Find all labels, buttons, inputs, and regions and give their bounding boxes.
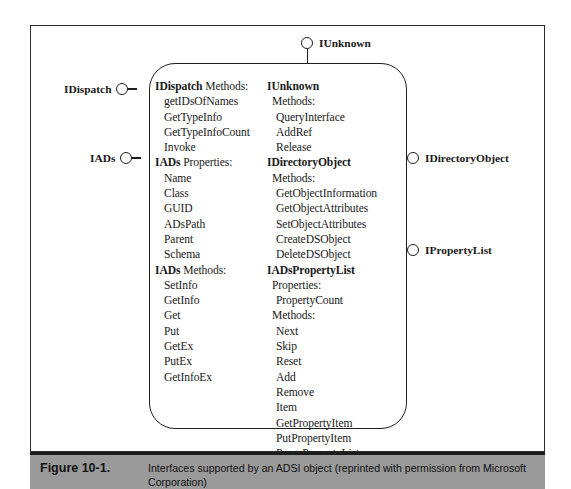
interface-heading: IUnknown — [267, 79, 417, 94]
member-name: GetInfoEx — [155, 370, 265, 385]
interface-lollipop-icon — [116, 83, 128, 95]
connector-iads: IADs — [90, 150, 141, 166]
member-name: Reset — [267, 354, 417, 369]
member-name: PutPropertyItem — [267, 431, 417, 446]
member-name: GetObjectInformation — [267, 186, 417, 201]
member-name: Put — [155, 324, 265, 339]
member-name: Add — [267, 370, 417, 385]
member-group-label: Methods: — [267, 308, 417, 323]
member-name: GetTypeInfoCount — [155, 125, 265, 140]
connector-iunknown-label: IUnknown — [319, 37, 371, 49]
member-name: SetObjectAttributes — [267, 217, 417, 232]
connector-stem — [128, 88, 137, 90]
interface-list-right: IUnknownMethods:QueryInterfaceAddRefRele… — [267, 79, 417, 461]
member-name: AddRef — [267, 125, 417, 140]
figure-number-label: Figure 10-1. — [30, 455, 148, 475]
member-name: PutEx — [155, 354, 265, 369]
member-name: Release — [267, 140, 417, 155]
member-name: Invoke — [155, 140, 265, 155]
member-name: SetInfo — [155, 278, 265, 293]
member-name: GUID — [155, 201, 265, 216]
member-name: QueryInterface — [267, 110, 417, 125]
connector-iunknown-stem — [307, 49, 309, 63]
connector-idirectoryobject-label: IDirectoryObject — [425, 152, 509, 164]
interface-heading: IADs Properties: — [155, 155, 265, 170]
connector-iunknown: IUnknown — [301, 37, 371, 49]
figure-caption-bar: Figure 10-1. Interfaces supported by an … — [30, 452, 545, 489]
interface-heading: IADs Methods: — [155, 263, 265, 278]
figure-caption-text: Interfaces supported by an ADSI object (… — [148, 455, 545, 489]
member-group-label: Properties: — [267, 278, 417, 293]
member-name: GetObjectAttributes — [267, 201, 417, 216]
member-name: Name — [155, 171, 265, 186]
interface-heading: IDirectoryObject — [267, 155, 417, 170]
member-name: Parent — [155, 232, 265, 247]
member-name: Class — [155, 186, 265, 201]
member-name: ADsPath — [155, 217, 265, 232]
connector-ipropertylist-label: IPropertyList — [425, 244, 492, 256]
interface-list-left: IDispatch Methods:getIDsOfNamesGetTypeIn… — [155, 79, 265, 385]
figure-frame: IUnknown IDispatch IADs IDirectoryObject… — [30, 25, 545, 452]
connector-iads-label: IADs — [90, 152, 115, 164]
member-name: GetPropertyItem — [267, 416, 417, 431]
member-name: Next — [267, 324, 417, 339]
interface-heading: IDispatch Methods: — [155, 79, 265, 94]
connector-stem — [132, 157, 141, 159]
member-name: GetInfo — [155, 293, 265, 308]
member-group-label: Methods: — [267, 94, 417, 109]
member-name: Schema — [155, 247, 265, 262]
member-name: Item — [267, 400, 417, 415]
connector-idispatch-label: IDispatch — [64, 83, 111, 95]
member-name: Remove — [267, 385, 417, 400]
member-group-label: Methods: — [267, 171, 417, 186]
member-name: GetEx — [155, 339, 265, 354]
member-name: CreateDSObject — [267, 232, 417, 247]
interface-lollipop-icon — [120, 152, 132, 164]
member-name: DeleteDSObject — [267, 247, 417, 262]
member-name: GetTypeInfo — [155, 110, 265, 125]
member-name: Get — [155, 308, 265, 323]
interface-heading: IADsPropertyList — [267, 263, 417, 278]
member-name: PropertyCount — [267, 293, 417, 308]
member-name: getIDsOfNames — [155, 94, 265, 109]
connector-idispatch: IDispatch — [64, 81, 137, 97]
interface-lollipop-icon — [301, 37, 313, 49]
member-name: Skip — [267, 339, 417, 354]
